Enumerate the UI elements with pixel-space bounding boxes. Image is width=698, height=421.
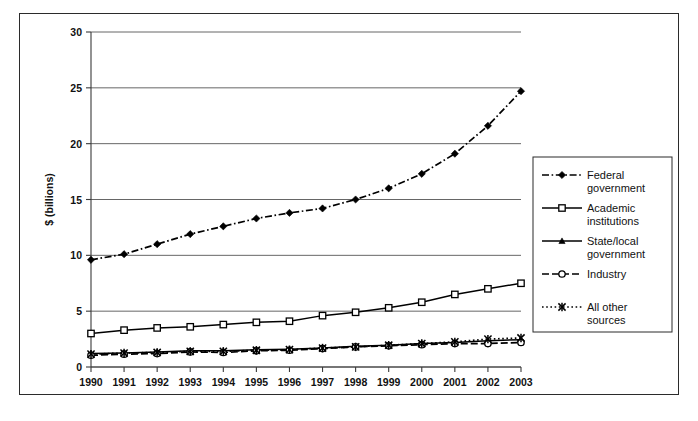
- data-point: [87, 256, 94, 263]
- x-tick-label: 1999: [377, 376, 401, 388]
- x-tick-label: 1996: [278, 376, 302, 388]
- x-tick-label: 1991: [112, 376, 136, 388]
- x-tick-label: 2001: [443, 376, 467, 388]
- data-point: [220, 321, 226, 327]
- legend-label: All other: [587, 301, 628, 313]
- data-point: [286, 209, 293, 216]
- series-all-other-sources: [87, 334, 524, 359]
- y-axis-title: $ (billions): [43, 173, 55, 226]
- y-tick-label: 0: [76, 361, 82, 373]
- x-tick-label: 1992: [145, 376, 169, 388]
- data-point: [120, 251, 127, 258]
- series-federal-government: [87, 88, 524, 264]
- data-point: [121, 327, 127, 333]
- data-point: [88, 330, 94, 336]
- data-point: [385, 305, 391, 311]
- y-tick-label: 20: [70, 138, 82, 150]
- legend-label: Industry: [587, 268, 627, 280]
- y-tick-label: 10: [70, 249, 82, 261]
- data-point: [419, 299, 425, 305]
- legend-label-line2: government: [587, 248, 645, 260]
- y-tick-label: 5: [76, 305, 82, 317]
- data-point: [253, 319, 259, 325]
- legend: FederalgovernmentAcademicinstitutionsSta…: [533, 157, 672, 332]
- legend-label-line2: government: [587, 182, 645, 194]
- data-point: [286, 318, 292, 324]
- data-point: [385, 185, 392, 192]
- y-axis-ticks-group: 051015202530: [70, 26, 91, 373]
- y-tick-label: 30: [70, 26, 82, 38]
- data-point: [187, 231, 194, 238]
- data-point: [452, 291, 458, 297]
- data-point: [187, 324, 193, 330]
- x-tick-label: 1994: [212, 376, 236, 388]
- x-tick-label: 2003: [509, 376, 533, 388]
- series-academic-institutions: [88, 280, 524, 337]
- legend-label: State/local: [587, 235, 638, 247]
- x-tick-label: 2000: [410, 376, 434, 388]
- data-point: [319, 205, 326, 212]
- data-point: [517, 88, 524, 95]
- line-chart: 051015202530 199019911992199319941995199…: [20, 14, 678, 394]
- data-point: [154, 241, 161, 248]
- data-series-group: [87, 88, 524, 359]
- data-point: [253, 215, 260, 222]
- data-point: [352, 309, 358, 315]
- legend-marker: [559, 205, 565, 211]
- chart-frame: 051015202530 199019911992199319941995199…: [19, 13, 679, 395]
- data-point: [319, 312, 325, 318]
- x-tick-label: 1990: [79, 376, 103, 388]
- y-tick-label: 15: [70, 194, 82, 206]
- data-point: [352, 196, 359, 203]
- x-tick-label: 1993: [179, 376, 203, 388]
- legend-label-line2: institutions: [587, 215, 639, 227]
- legend-label-line2: sources: [587, 314, 626, 326]
- y-tick-label: 25: [70, 82, 82, 94]
- legend-marker: [559, 271, 565, 277]
- data-point: [220, 223, 227, 230]
- series-line: [91, 91, 521, 260]
- x-tick-label: 2002: [476, 376, 500, 388]
- x-tick-label: 1997: [311, 376, 335, 388]
- x-axis-ticks-group: 1990199119921993199419951996199719981999…: [79, 367, 533, 388]
- data-point: [154, 325, 160, 331]
- x-tick-label: 1998: [344, 376, 368, 388]
- data-point: [485, 286, 491, 292]
- gridlines-group: [91, 32, 521, 367]
- legend-label: Federal: [587, 169, 624, 181]
- legend-label: Academic: [587, 202, 636, 214]
- data-point: [517, 334, 524, 342]
- x-tick-label: 1995: [245, 376, 269, 388]
- data-point: [518, 280, 524, 286]
